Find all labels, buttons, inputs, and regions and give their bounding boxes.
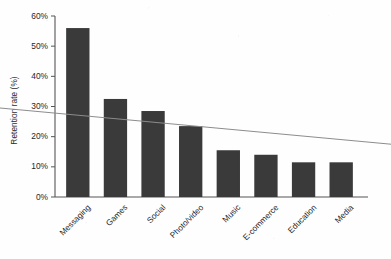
bar xyxy=(66,28,89,197)
bar xyxy=(179,126,202,197)
bars-group xyxy=(66,28,353,197)
bar xyxy=(330,162,353,197)
bar xyxy=(254,155,277,197)
retention-rate-bar-chart: Retention rate (%) 0% 10% 20% 30% 40% 50… xyxy=(0,0,391,259)
bar xyxy=(217,150,240,197)
axis-lines xyxy=(51,16,368,197)
bar xyxy=(104,99,127,197)
bar xyxy=(141,111,164,197)
bar xyxy=(292,162,315,197)
plot-area xyxy=(0,0,391,259)
